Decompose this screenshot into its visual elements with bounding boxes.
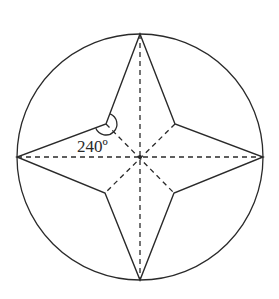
center-point [138, 155, 142, 159]
star-in-circle-diagram: 240º [0, 0, 279, 299]
angle-label: 240º [77, 137, 108, 156]
